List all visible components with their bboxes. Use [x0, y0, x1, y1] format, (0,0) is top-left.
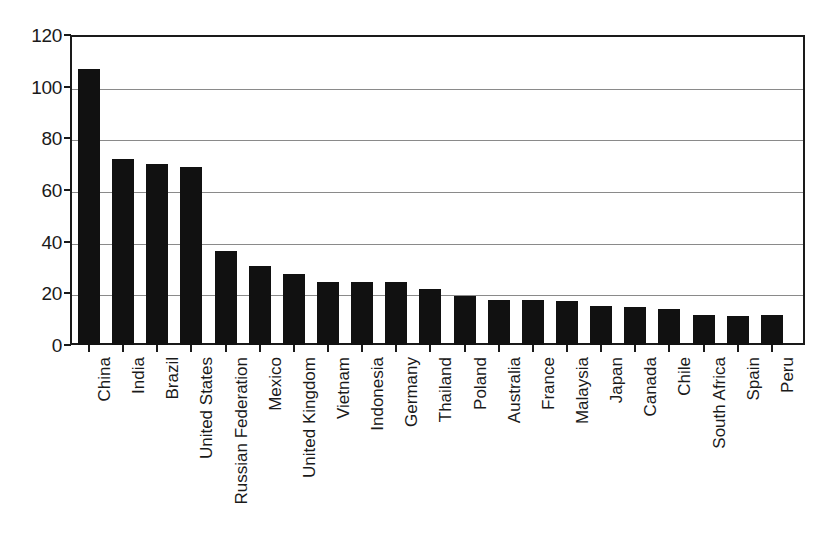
x-axis-tick-label: Russian Federation — [233, 357, 250, 504]
x-axis-tick-label: Brazil — [164, 357, 181, 400]
x-axis-tick-mark — [566, 345, 568, 352]
bar — [215, 251, 237, 345]
x-axis-label-wrapper: France — [540, 357, 557, 410]
x-axis-tick-labels: ChinaIndiaBrazilUnited StatesRussian Fed… — [70, 357, 805, 552]
x-axis-tick-mark — [600, 345, 602, 352]
x-axis-tick-mark — [429, 345, 431, 352]
x-axis-label-wrapper: Canada — [642, 357, 659, 417]
x-axis-tick-mark — [634, 345, 636, 352]
x-axis-tick-marks — [70, 345, 805, 355]
x-axis-tick-mark — [703, 345, 705, 352]
x-axis-tick-label: Malaysia — [574, 357, 591, 424]
x-axis-tick-label: India — [130, 357, 147, 394]
bar — [454, 296, 476, 345]
x-axis-tick-mark — [668, 345, 670, 352]
bar — [590, 306, 612, 345]
x-axis-label-wrapper: Thailand — [437, 357, 454, 422]
x-axis-tick-label: Thailand — [437, 357, 454, 422]
x-axis-label-wrapper: India — [130, 357, 147, 394]
bar-series — [70, 35, 805, 345]
bar — [624, 307, 646, 345]
x-axis-tick-label: South Africa — [711, 357, 728, 449]
x-axis-tick-label: Germany — [403, 357, 420, 427]
x-axis-tick-mark — [395, 345, 397, 352]
bar — [385, 282, 407, 345]
x-axis-label-wrapper: South Africa — [711, 357, 728, 449]
bar — [146, 164, 168, 345]
x-axis-tick-mark — [122, 345, 124, 352]
x-axis-tick-mark — [498, 345, 500, 352]
x-axis-label-wrapper: United States — [198, 357, 215, 459]
bar — [317, 282, 339, 345]
bar — [180, 167, 202, 345]
x-axis-label-wrapper: Germany — [403, 357, 420, 427]
bar — [283, 274, 305, 345]
x-axis-tick-label: France — [540, 357, 557, 410]
x-axis-tick-mark — [771, 345, 773, 352]
x-axis-tick-mark — [293, 345, 295, 352]
bar — [727, 316, 749, 345]
x-axis-tick-label: Chile — [676, 357, 693, 396]
x-axis-tick-mark — [361, 345, 363, 352]
x-axis-label-wrapper: Spain — [745, 357, 762, 400]
bar — [419, 289, 441, 345]
x-axis-tick-label: Mexico — [267, 357, 284, 411]
bar — [693, 315, 715, 345]
bar — [351, 282, 373, 345]
x-axis-label-wrapper: Mexico — [267, 357, 284, 411]
x-axis-label-wrapper: Poland — [472, 357, 489, 410]
x-axis-tick-mark — [225, 345, 227, 352]
bar — [488, 300, 510, 345]
x-axis-tick-label: Indonesia — [369, 357, 386, 431]
bar — [249, 266, 271, 345]
x-axis-label-wrapper: Malaysia — [574, 357, 591, 424]
x-axis-tick-label: Poland — [472, 357, 489, 410]
x-axis-label-wrapper: Vietnam — [335, 357, 352, 419]
x-axis-label-wrapper: Peru — [779, 357, 796, 393]
x-axis-tick-mark — [88, 345, 90, 352]
x-axis-tick-label: United Kingdom — [301, 357, 318, 478]
x-axis-label-wrapper: Russian Federation — [233, 357, 250, 504]
x-axis-tick-label: China — [96, 357, 113, 401]
x-axis-tick-label: Australia — [506, 357, 523, 423]
bar — [761, 315, 783, 345]
x-axis-tick-mark — [156, 345, 158, 352]
x-axis-tick-label: Spain — [745, 357, 762, 400]
bar-chart: 020406080100120 ChinaIndiaBrazilUnited S… — [0, 0, 829, 556]
bar — [112, 159, 134, 345]
x-axis-tick-label: Peru — [779, 357, 796, 393]
x-axis-tick-mark — [737, 345, 739, 352]
x-axis-label-wrapper: Brazil — [164, 357, 181, 400]
bar — [556, 301, 578, 345]
y-axis-tick-marks — [0, 35, 80, 345]
x-axis-label-wrapper: Japan — [608, 357, 625, 403]
x-axis-tick-mark — [259, 345, 261, 352]
x-axis-tick-mark — [327, 345, 329, 352]
x-axis-tick-label: Japan — [608, 357, 625, 403]
x-axis-tick-label: United States — [198, 357, 215, 459]
bar — [78, 69, 100, 345]
x-axis-label-wrapper: United Kingdom — [301, 357, 318, 478]
x-axis-label-wrapper: China — [96, 357, 113, 401]
bar — [522, 300, 544, 345]
x-axis-tick-mark — [532, 345, 534, 352]
x-axis-tick-mark — [190, 345, 192, 352]
x-axis-tick-mark — [464, 345, 466, 352]
x-axis-label-wrapper: Australia — [506, 357, 523, 423]
x-axis-label-wrapper: Chile — [676, 357, 693, 396]
x-axis-label-wrapper: Indonesia — [369, 357, 386, 431]
bar — [658, 309, 680, 345]
x-axis-tick-label: Vietnam — [335, 357, 352, 419]
x-axis-tick-label: Canada — [642, 357, 659, 417]
